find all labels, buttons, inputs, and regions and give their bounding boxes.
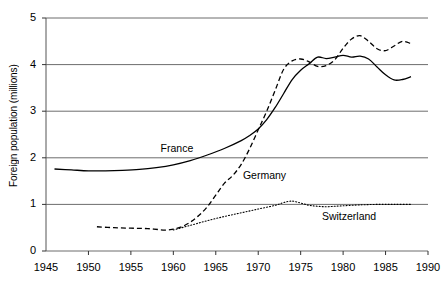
x-tick-label: 1950	[68, 262, 108, 273]
x-tick-label: 1960	[153, 262, 193, 273]
y-tick-label: 4	[20, 59, 36, 70]
series-line-france	[54, 55, 411, 171]
y-tick-label: 0	[20, 245, 36, 256]
y-tick-label: 3	[20, 105, 36, 116]
series-label-france: France	[161, 143, 194, 154]
x-tick-label: 1970	[238, 262, 278, 273]
y-tick-label: 1	[20, 198, 36, 209]
series-label-switzerland: Switzerland	[322, 211, 376, 222]
y-tick-label: 5	[20, 12, 36, 23]
x-tick-label: 1955	[111, 262, 151, 273]
y-tick-label: 2	[20, 152, 36, 163]
x-tick-label: 1965	[196, 262, 236, 273]
x-tick-label: 1975	[281, 262, 321, 273]
series-label-germany: Germany	[243, 170, 286, 181]
x-tick-label: 1980	[323, 262, 363, 273]
x-tick-label: 1945	[26, 262, 66, 273]
x-tick-label: 1990	[408, 262, 445, 273]
x-tick-label: 1985	[366, 262, 406, 273]
